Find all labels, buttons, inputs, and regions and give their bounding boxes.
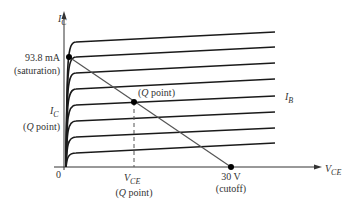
cutoff-point	[228, 164, 234, 170]
dc-load-line	[69, 57, 231, 167]
cutoff-note-label: (cutoff)	[216, 183, 246, 195]
ib-curve-1	[66, 143, 275, 167]
ib-curve-4	[66, 96, 275, 167]
ib-curve-3	[66, 112, 275, 167]
saturation-note-label: (saturation)	[14, 65, 60, 77]
cutoff-value-label: 30 V	[221, 171, 241, 182]
transistor-characteristic-diagram: IC 93.8 mA (saturation) IC (Q point) (Q …	[0, 0, 353, 209]
saturation-value-label: 93.8 mA	[25, 52, 61, 63]
x-axis-arrow-icon	[314, 165, 322, 170]
origin-label: 0	[56, 169, 61, 180]
q-point-label: (Q point)	[138, 87, 175, 99]
x-axis-label: VCE	[325, 163, 341, 177]
vce-q-label: VCE	[124, 172, 140, 186]
q-point	[131, 99, 137, 105]
ib-curve-family	[66, 32, 275, 167]
ic-q-label: IC	[49, 105, 59, 119]
vce-q-note-label: (Q point)	[116, 187, 153, 199]
ib-label: IB	[284, 91, 293, 105]
ic-q-note-label: (Q point)	[23, 121, 60, 133]
saturation-point	[66, 54, 72, 60]
y-axis-label: IC	[57, 13, 67, 27]
